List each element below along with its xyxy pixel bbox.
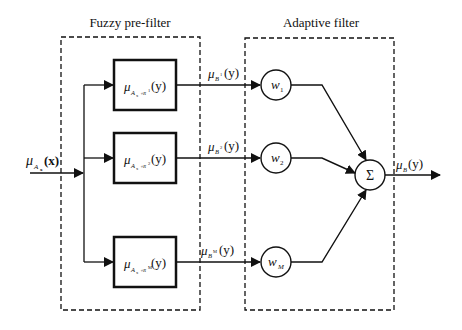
weight-2-to-sum-arrow — [291, 158, 355, 173]
svg-text:1: 1 — [280, 86, 284, 94]
svg-text:(y): (y) — [224, 138, 239, 153]
svg-text:B: B — [403, 166, 407, 173]
weight-node-m: w M — [261, 247, 291, 277]
svg-text:(y): (y) — [224, 65, 239, 80]
svg-text:(x): (x) — [44, 153, 59, 168]
diagram-canvas: Fuzzy pre-filter Adaptive filter μ A x (… — [0, 0, 462, 330]
svg-text:B: B — [215, 148, 219, 155]
weight-node-1: w 1 — [261, 70, 291, 100]
svg-text:M: M — [213, 249, 217, 254]
svg-text:μ: μ — [207, 66, 215, 81]
svg-text:(y): (y) — [151, 151, 166, 166]
composition-block-1: μ A x ∘R 1 (y) — [114, 60, 176, 110]
svg-text:w: w — [271, 150, 280, 165]
svg-text:∘R: ∘R — [140, 164, 146, 169]
prefilter-title: Fuzzy pre-filter — [89, 15, 171, 30]
svg-text:2: 2 — [280, 159, 284, 167]
svg-text:μ: μ — [25, 153, 33, 168]
svg-text:A: A — [33, 163, 39, 171]
adaptive-filter-title: Adaptive filter — [283, 15, 360, 30]
svg-text:μ: μ — [395, 157, 403, 172]
weight-1-to-sum-arrow — [291, 85, 366, 160]
svg-text:A: A — [130, 266, 135, 273]
composition-block-2: μ A x ∘R 2 (y) — [114, 133, 176, 183]
svg-text:(y): (y) — [151, 255, 166, 270]
svg-text:M: M — [277, 263, 285, 271]
output-label: μ B (y) — [395, 156, 423, 173]
edge-label-m: μ B M (y) — [200, 242, 234, 259]
svg-text:μ: μ — [123, 152, 131, 167]
edge-label-1: μ B 1 (y) — [207, 65, 239, 82]
svg-text:B: B — [215, 75, 219, 82]
svg-text:μ: μ — [123, 256, 131, 271]
svg-text:∘R: ∘R — [140, 268, 146, 273]
svg-text:1: 1 — [220, 72, 222, 77]
svg-text:B: B — [208, 252, 212, 259]
svg-text:2: 2 — [220, 145, 222, 150]
weight-node-2: w 2 — [261, 143, 291, 173]
svg-text:A: A — [130, 162, 135, 169]
svg-text:μ: μ — [207, 139, 215, 154]
input-label: μ A x (x) — [25, 153, 59, 172]
edge-label-2: μ B 2 (y) — [207, 138, 239, 155]
svg-text:μ: μ — [200, 243, 208, 258]
summation-node: Σ — [355, 160, 385, 190]
svg-text:1: 1 — [148, 88, 150, 93]
svg-text:(y): (y) — [219, 242, 234, 257]
composition-block-m: μ A x ∘R M (y) — [114, 237, 176, 287]
svg-text:(y): (y) — [151, 78, 166, 93]
svg-text:2: 2 — [148, 161, 150, 166]
svg-text:∘R: ∘R — [140, 91, 146, 96]
svg-text:x: x — [40, 167, 43, 172]
sigma-icon: Σ — [366, 168, 374, 183]
svg-text:μ: μ — [123, 79, 131, 94]
weight-m-to-sum-arrow — [291, 190, 366, 262]
svg-text:A: A — [130, 89, 135, 96]
svg-text:(y): (y) — [408, 156, 423, 171]
svg-text:w: w — [268, 254, 277, 269]
svg-text:w: w — [271, 77, 280, 92]
